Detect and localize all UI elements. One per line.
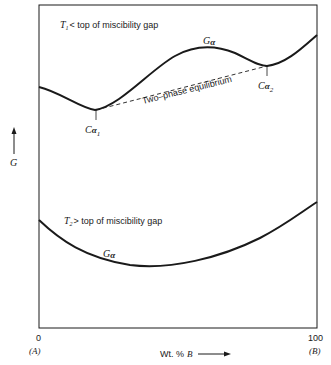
upper-condition-label: T1< top of miscibility gap bbox=[60, 19, 158, 31]
x-tick-100: 100 bbox=[308, 333, 323, 343]
x-tick-0: 0 bbox=[36, 333, 41, 343]
x-end-a-label: (A) bbox=[29, 346, 41, 356]
x-axis-arrow-icon bbox=[224, 352, 231, 357]
x-end-b-label: (B) bbox=[309, 346, 321, 356]
x-axis-label: Wt. %B bbox=[160, 349, 193, 359]
upper-g-alpha-label: Gα bbox=[203, 35, 216, 47]
c-alpha2-label: Cα2 bbox=[258, 80, 274, 94]
g-axis-label: G bbox=[10, 157, 17, 168]
c-alpha1-label: Cα1 bbox=[85, 124, 100, 138]
two-phase-equilibrium-label: Two–phase equilibrium bbox=[141, 74, 233, 106]
g-axis-arrow-icon bbox=[12, 127, 17, 134]
upper-free-energy-curve bbox=[39, 35, 317, 110]
lower-condition-label: T2> top of miscibility gap bbox=[64, 215, 162, 227]
lower-free-energy-curve bbox=[39, 202, 317, 266]
lower-g-alpha-label: Gα bbox=[103, 248, 116, 260]
diagram-canvas: G T1< top of miscibility gap Gα Two–phas… bbox=[0, 0, 331, 365]
